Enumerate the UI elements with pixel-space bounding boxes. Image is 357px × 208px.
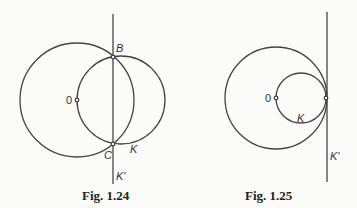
label-o: 0 (265, 92, 271, 104)
circle-k (77, 56, 165, 144)
label-b: B (116, 42, 123, 54)
label-c: C (104, 149, 112, 161)
label-k: K (130, 143, 138, 155)
point-c (111, 142, 115, 146)
caption-fig-1-24: Fig. 1.24 (82, 188, 130, 203)
point-o (274, 96, 278, 100)
point-tangent (324, 96, 328, 100)
caption-fig-1-25: Fig. 1.25 (245, 188, 293, 203)
figure-canvas: 0 B C K K' Fig. 1.24 0 K K' Fig. 1.25 (0, 0, 357, 208)
label-k-prime: K' (330, 150, 340, 162)
figure-1-24 (20, 14, 165, 184)
point-o (75, 98, 79, 102)
label-o: 0 (66, 94, 72, 106)
figure-1-25 (225, 12, 328, 182)
point-b (111, 55, 115, 59)
label-k-prime: K' (116, 170, 126, 182)
label-k: K (297, 112, 305, 124)
